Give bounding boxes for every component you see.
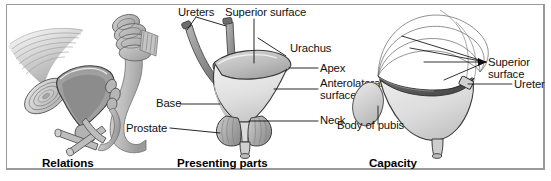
panel-presenting-parts: Ureters Superior surface Urachus Apex An…: [158, 0, 358, 181]
caption-presenting-parts: Presenting parts: [177, 156, 268, 169]
label-superior-surface: Superior surface: [225, 6, 306, 19]
label-ureters: Ureters: [178, 6, 214, 19]
panel-relations: Relations: [6, 0, 181, 181]
caption-capacity: Capacity: [369, 156, 417, 169]
label-prostate: Prostate: [126, 122, 167, 135]
bladder-anatomy-figure: Relations: [0, 0, 551, 181]
caption-relations: Relations: [42, 156, 94, 169]
label-capacity-superior-line1: Superior: [488, 56, 530, 69]
label-body-of-pubis: Body of pubis: [337, 119, 404, 132]
panel-capacity: Superior surface Ureter Body of pubis Ca…: [340, 0, 545, 181]
label-base: Base: [156, 97, 181, 110]
label-urachus: Urachus: [290, 42, 331, 55]
label-ureter: Ureter: [514, 78, 545, 91]
relations-illustration: [6, 0, 181, 160]
